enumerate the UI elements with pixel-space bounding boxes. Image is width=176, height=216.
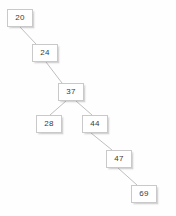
tree-node[interactable]: 44 — [82, 115, 108, 133]
tree-node[interactable]: 20 — [7, 9, 33, 27]
tree-node-label: 28 — [44, 120, 53, 128]
edge-layer — [0, 0, 176, 216]
tree-node-label: 47 — [114, 155, 123, 163]
tree-node[interactable]: 37 — [58, 83, 84, 101]
tree-edge — [118, 168, 137, 185]
tree-node-label: 69 — [139, 190, 148, 198]
tree-node[interactable]: 47 — [106, 150, 132, 168]
tree-node[interactable]: 24 — [32, 44, 58, 62]
tree-node[interactable]: 28 — [36, 115, 62, 133]
tree-node-label: 24 — [40, 49, 49, 57]
tree-node-label: 44 — [90, 120, 99, 128]
tree-diagram-canvas: 20243728444769 — [0, 0, 176, 216]
tree-edge — [46, 62, 62, 83]
tree-node-label: 20 — [15, 14, 24, 22]
tree-edge — [20, 27, 36, 44]
tree-edge — [50, 101, 66, 115]
tree-edge — [76, 101, 92, 115]
tree-node-label: 37 — [66, 88, 75, 96]
tree-edge — [91, 133, 112, 150]
tree-node[interactable]: 69 — [131, 185, 157, 203]
